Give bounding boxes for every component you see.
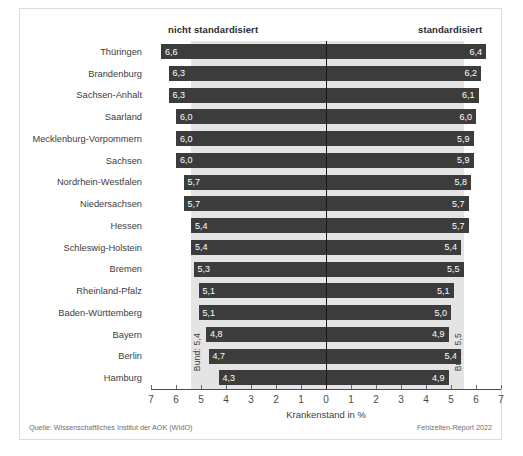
bar-nicht-standardisiert: 6,6	[161, 44, 326, 59]
bund-left-label: Bund: 5,4	[192, 333, 202, 371]
category-label: Saarland	[105, 112, 142, 122]
axis-tick	[201, 385, 202, 389]
category-label: Baden-Württemberg	[58, 308, 142, 318]
bar-nicht-standardisiert: 5,7	[184, 175, 327, 190]
axis-tick	[276, 385, 277, 389]
source-note: Quelle: Wissenschaftliches Institut der …	[29, 423, 192, 432]
bar-standardisiert: 5,1	[326, 283, 454, 298]
bar-value-label: 4,3	[223, 373, 236, 383]
x-axis-title: Krankenstand in %	[151, 409, 501, 420]
bar-value-label: 6,3	[173, 90, 186, 100]
bar-value-label: 5,9	[457, 155, 470, 165]
bar-value-label: 6,4	[469, 47, 482, 57]
bar-value-label: 5,0	[434, 308, 447, 318]
axis-tick-label: 2	[273, 394, 279, 405]
bar-value-label: 5,5	[447, 264, 460, 274]
axis-tick	[176, 385, 177, 389]
axis-tick	[401, 385, 402, 389]
axis-tick	[151, 385, 152, 389]
bar-value-label: 6,6	[165, 47, 178, 57]
category-label: Brandenburg	[88, 69, 142, 79]
bar-standardisiert: 6,4	[326, 44, 486, 59]
axis-tick-label: 6	[473, 394, 479, 405]
category-label: Sachsen-Anhalt	[76, 90, 142, 100]
category-label: Berlin	[118, 351, 142, 361]
axis-tick-label: 7	[498, 394, 504, 405]
axis-tick-label: 7	[148, 394, 154, 405]
bar-nicht-standardisiert: 6,0	[176, 131, 326, 146]
axis-tick-label: 3	[398, 394, 404, 405]
bar-standardisiert: 5,4	[326, 349, 461, 364]
axis-tick-label: 2	[373, 394, 379, 405]
bar-standardisiert: 5,4	[326, 240, 461, 255]
bar-nicht-standardisiert: 4,7	[209, 349, 327, 364]
axis-tick	[301, 385, 302, 389]
bar-value-label: 4,7	[213, 351, 226, 361]
bar-standardisiert: 6,0	[326, 109, 476, 124]
bar-value-label: 6,2	[464, 68, 477, 78]
bar-value-label: 5,7	[452, 221, 465, 231]
axis-tick-label: 4	[223, 394, 229, 405]
axis-tick-label: 5	[448, 394, 454, 405]
bar-value-label: 5,1	[203, 308, 216, 318]
bar-standardisiert: 5,7	[326, 196, 469, 211]
bar-standardisiert: 5,8	[326, 175, 471, 190]
bar-value-label: 4,9	[432, 329, 445, 339]
chart-figure: nicht standardisiert standardisiert Thür…	[19, 8, 502, 440]
axis-tick-label: 1	[348, 394, 354, 405]
axis-tick	[451, 385, 452, 389]
bar-standardisiert: 6,2	[326, 66, 481, 81]
bar-nicht-standardisiert: 6,0	[176, 153, 326, 168]
category-label: Sachsen	[106, 156, 142, 166]
axis-tick-label: 3	[248, 394, 254, 405]
category-label: Mecklenburg-Vorpommern	[32, 134, 142, 144]
category-label: Thüringen	[100, 47, 142, 57]
axis-tick	[376, 385, 377, 389]
axis-tick-label: 1	[298, 394, 304, 405]
x-axis: 765432101234567	[151, 389, 501, 390]
bar-standardisiert: 4,9	[326, 327, 449, 342]
report-note: Fehlzeiten-Report 2022	[417, 423, 492, 432]
bar-nicht-standardisiert: 6,3	[169, 88, 327, 103]
bar-standardisiert: 5,5	[326, 262, 464, 277]
bar-nicht-standardisiert: 6,3	[169, 66, 327, 81]
bar-nicht-standardisiert: 4,8	[206, 327, 326, 342]
bar-value-label: 6,0	[180, 155, 193, 165]
bar-value-label: 6,0	[180, 134, 193, 144]
bar-nicht-standardisiert: 5,3	[194, 262, 327, 277]
bar-value-label: 5,7	[452, 199, 465, 209]
bar-standardisiert: 5,9	[326, 131, 474, 146]
category-label: Hamburg	[104, 373, 142, 383]
axis-tick	[476, 385, 477, 389]
axis-tick-label: 0	[323, 394, 329, 405]
legend-label-nicht-standardisiert: nicht standardisiert	[168, 24, 258, 35]
zero-axis-line	[326, 41, 327, 389]
bar-value-label: 5,1	[203, 286, 216, 296]
axis-tick	[501, 385, 502, 389]
bar-value-label: 5,7	[188, 199, 201, 209]
axis-tick	[351, 385, 352, 389]
category-label: Rheinland-Pfalz	[76, 286, 142, 296]
plot-area: Thüringen6,66,4Brandenburg6,36,2Sachsen-…	[151, 41, 501, 389]
bar-nicht-standardisiert: 5,1	[199, 283, 327, 298]
bar-value-label: 5,3	[198, 264, 211, 274]
category-label: Hessen	[110, 221, 142, 231]
bar-value-label: 6,1	[462, 90, 475, 100]
axis-tick	[426, 385, 427, 389]
bar-nicht-standardisiert: 5,4	[191, 240, 326, 255]
axis-tick	[251, 385, 252, 389]
bar-value-label: 4,9	[432, 373, 445, 383]
bar-nicht-standardisiert: 5,4	[191, 218, 326, 233]
bar-value-label: 5,4	[195, 221, 208, 231]
bar-nicht-standardisiert: 4,3	[219, 370, 327, 385]
bar-value-label: 5,1	[437, 286, 450, 296]
category-label: Niedersachsen	[80, 199, 142, 209]
bar-standardisiert: 5,7	[326, 218, 469, 233]
category-label: Bayern	[113, 330, 142, 340]
axis-tick-label: 6	[173, 394, 179, 405]
bar-standardisiert: 6,1	[326, 88, 479, 103]
bund-right-label: Bund: 5,5	[453, 333, 463, 371]
bar-standardisiert: 4,9	[326, 370, 449, 385]
legend-label-standardisiert: standardisiert	[418, 24, 482, 35]
bar-value-label: 5,9	[457, 134, 470, 144]
